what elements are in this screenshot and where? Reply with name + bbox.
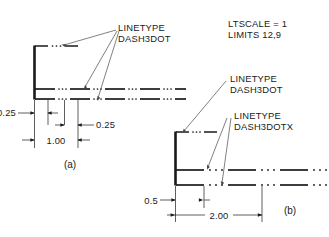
figure-b-caption: (b) xyxy=(284,205,296,216)
figure-a-annotation-line2: DASH3DOT xyxy=(118,33,171,44)
figure-a-annotation-line1: LINETYPE xyxy=(118,22,165,33)
figure-b-annotation-dash3dotx-line2: DASH3DOTX xyxy=(234,121,294,132)
figure-b-annotation-dash3dot-line1: LINETYPE xyxy=(230,73,277,84)
figure-b-annotation-dash3dot-line2: DASH3DOT xyxy=(230,84,283,95)
figure-a: 0.25 0.25 1.00 (a) LINETYPE xyxy=(0,22,186,170)
figure-a-middle-sample-line xyxy=(35,88,186,90)
dim-label-1-00: 1.00 xyxy=(46,135,65,146)
figure-b-middle-sample-line xyxy=(176,169,327,171)
cad-drawing-canvas: 0.25 0.25 1.00 (a) LINETYPE xyxy=(0,0,329,237)
figure-a-dimension-0-25-left: 0.25 xyxy=(0,107,58,118)
figure-b-bottom-sample-line xyxy=(176,184,327,186)
ltscale-note: LTSCALE = 1 xyxy=(228,18,287,29)
figure-b-top-sample-line xyxy=(176,131,217,133)
dim-label-0-5: 0.5 xyxy=(144,195,158,206)
figure-b-dimension-0-5: 0.5 xyxy=(144,195,210,206)
figure-a-dimension-0-25-right: 0.25 xyxy=(55,119,115,130)
figure-b-annotation-dash3dotx-line1: LINETYPE xyxy=(234,110,281,121)
figure-a-leader-lines xyxy=(62,30,120,101)
figure-b-leader-dash3dotx xyxy=(207,118,231,186)
figure-a-caption: (a) xyxy=(64,159,76,170)
figure-b-leader-dash3dot xyxy=(182,81,226,133)
dim-label-0-25-left: 0.25 xyxy=(0,107,16,118)
figure-b: LINETYPE DASH3DOT LINETYPE DASH3DOTX 0.5 xyxy=(144,73,327,222)
figure-a-top-sample-line xyxy=(35,45,78,47)
figure-a-bottom-sample-line xyxy=(35,98,186,100)
dim-label-2-00: 2.00 xyxy=(209,210,228,221)
technical-drawing-page: 0.25 0.25 1.00 (a) LINETYPE xyxy=(0,0,329,237)
limits-note: LIMITS 12,9 xyxy=(228,29,281,40)
dim-label-0-25-right: 0.25 xyxy=(96,119,115,130)
figure-b-dimension-2-00: 2.00 xyxy=(167,210,262,221)
figure-a-dimension-1-00: 1.00 xyxy=(22,135,90,146)
ltscale-limits-note: LTSCALE = 1 LIMITS 12,9 xyxy=(228,18,287,40)
